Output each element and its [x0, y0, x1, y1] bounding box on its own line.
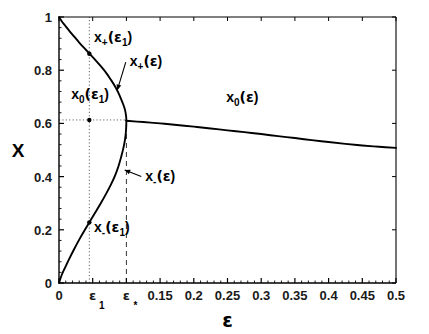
x-tick-label: 0.5 [387, 288, 405, 303]
x-axis-title: ε [222, 309, 233, 331]
figure-background [0, 0, 429, 334]
x-tick-label: 0.35 [282, 288, 307, 303]
y-tick-label: 0.6 [34, 116, 52, 131]
x-tick-label-subscript: * [133, 300, 137, 311]
x-tick-label: ε [89, 288, 96, 303]
x-tick-label: 0.15 [147, 288, 172, 303]
x-tick-label: 0 [55, 288, 62, 303]
chart-figure: 0ε1ε*0.150.20.250.30.350.40.450.5 00.20.… [0, 0, 429, 334]
y-tick-label: 0.4 [34, 170, 53, 185]
y-tick-label: 0.2 [34, 223, 52, 238]
x-tick-label: 0.45 [350, 288, 375, 303]
x-tick-label: 0.2 [185, 288, 203, 303]
y-tick-label: 0 [45, 276, 52, 291]
y-tick-label: 1 [45, 10, 52, 25]
x-tick-label: 0.4 [320, 288, 339, 303]
x-plus-eps1-point [87, 52, 91, 56]
x-tick-label: 0.3 [252, 288, 270, 303]
y-axis-title: X [12, 140, 25, 161]
plot-canvas: 0ε1ε*0.150.20.250.30.350.40.450.5 00.20.… [0, 0, 429, 334]
x-tick-label: 0.25 [215, 288, 240, 303]
x0-eps1-point [87, 118, 91, 122]
x-tick-label: ε [123, 288, 130, 303]
y-tick-label: 0.8 [34, 63, 52, 78]
x-tick-label-subscript: 1 [99, 300, 105, 311]
x-minus-eps1-point [87, 220, 91, 224]
